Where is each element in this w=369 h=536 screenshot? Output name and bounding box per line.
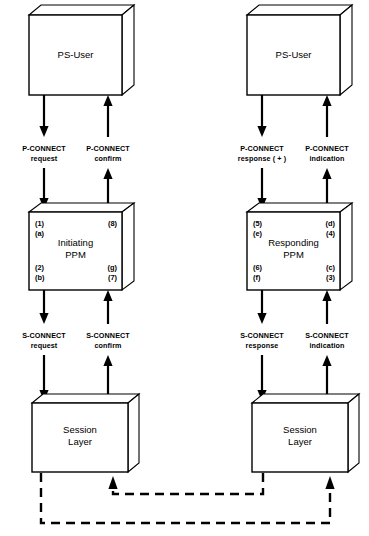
svg-text:P-CONNECT: P-CONNECT [305, 144, 349, 153]
left-ps-user-box-top-face [29, 5, 134, 15]
left-session-layer-label-line1: Session [63, 424, 97, 435]
svg-text:P-CONNECT: P-CONNECT [86, 144, 130, 153]
right-ps-user-box-right-face [340, 5, 352, 95]
initiating-ppm-box: Initiating PPM (1) (a) (8) (2) (b) (g) (… [29, 203, 134, 290]
svg-text:P-CONNECT: P-CONNECT [240, 144, 284, 153]
left-p-connect-confirm-arrow-upper [103, 95, 112, 137]
right-p-connect-response-label: P-CONNECT response ( + ) [238, 144, 287, 163]
initiating-ppm-label-line1: Initiating [58, 237, 93, 248]
right-s-connect-response-label: S-CONNECT response [240, 331, 284, 350]
responding-ppm-tag-top-left-2: (e) [253, 229, 263, 238]
svg-text:request: request [31, 154, 58, 163]
svg-text:P-CONNECT: P-CONNECT [22, 144, 66, 153]
responding-ppm-box-right-face [340, 203, 352, 290]
left-ps-user-label: PS-User [58, 49, 94, 60]
left-s-connect-confirm-arrow-upper [103, 290, 112, 324]
left-s-connect-request-arrow-upper [39, 290, 48, 324]
right-session-layer-box: Session Layer [252, 394, 359, 472]
initiating-ppm-tag-bottom-left-2: (b) [35, 273, 45, 282]
right-ps-user-box-top-face [247, 5, 352, 15]
right-s-connect-response-arrow-upper [257, 290, 266, 324]
diagram-svg: PS-User P-CONNECT request P-CONNECT conf… [0, 0, 369, 536]
responding-ppm-tag-bottom-left-1: (6) [253, 263, 263, 272]
svg-text:response: response [246, 341, 279, 350]
left-s-connect-confirm-label: S-CONNECT confirm [86, 331, 130, 350]
svg-text:S-CONNECT: S-CONNECT [22, 331, 66, 340]
initiating-ppm-tag-top-right-1: (8) [108, 219, 118, 228]
svg-text:S-CONNECT: S-CONNECT [86, 331, 130, 340]
left-ps-user-box-right-face [122, 5, 134, 95]
right-session-layer-label-line1: Session [283, 424, 317, 435]
left-s-connect-request-label: S-CONNECT request [22, 331, 66, 350]
responding-ppm-label-line1: Responding [268, 237, 319, 248]
initiating-ppm-tag-top-left-2: (a) [35, 229, 45, 238]
diagram-canvas: PS-User P-CONNECT request P-CONNECT conf… [0, 0, 369, 536]
svg-text:S-CONNECT: S-CONNECT [305, 331, 349, 340]
right-p-connect-response-arrow-upper [257, 95, 266, 137]
left-session-layer-box-right-face [128, 394, 139, 472]
initiating-ppm-tag-bottom-right-1: (g) [108, 263, 118, 272]
reverse-peer-link-arrowhead [108, 476, 117, 489]
responding-ppm-tag-bottom-right-1: (c) [326, 263, 336, 272]
right-ps-user-label: PS-User [276, 49, 312, 60]
svg-text:S-CONNECT: S-CONNECT [240, 331, 284, 340]
forward-peer-link [41, 473, 335, 523]
svg-text:confirm: confirm [94, 154, 121, 163]
right-p-connect-indication-label: P-CONNECT indication [305, 144, 349, 163]
forward-peer-link-arrowhead [325, 476, 334, 489]
responding-ppm-box-top-face [247, 203, 352, 212]
left-session-layer-box-top-face [32, 394, 139, 403]
right-session-layer-box-right-face [348, 394, 359, 472]
right-ps-user-box: PS-User [247, 5, 352, 95]
right-s-connect-indication-label: S-CONNECT indication [305, 331, 349, 350]
left-p-connect-confirm-label: P-CONNECT confirm [86, 144, 130, 163]
initiating-ppm-tag-bottom-right-2: (7) [108, 273, 118, 282]
right-session-layer-box-top-face [252, 394, 359, 403]
right-session-layer-label-line2: Layer [288, 436, 312, 447]
responding-ppm-tag-top-left-1: (5) [253, 219, 263, 228]
responding-ppm-label-line2: PPM [283, 249, 304, 260]
initiating-ppm-label-line2: PPM [65, 249, 86, 260]
initiating-ppm-box-right-face [122, 203, 134, 290]
svg-text:response ( + ): response ( + ) [238, 154, 287, 163]
responding-ppm-tag-top-right-2: (4) [326, 229, 336, 238]
responding-ppm-tag-bottom-right-2: (3) [326, 273, 336, 282]
right-s-connect-indication-arrow-upper [322, 290, 331, 324]
responding-ppm-tag-top-right-1: (d) [326, 219, 336, 228]
left-session-layer-label-line2: Layer [68, 436, 92, 447]
initiating-ppm-tag-top-left-1: (1) [35, 219, 45, 228]
responding-ppm-tag-bottom-left-2: (f) [253, 273, 261, 282]
svg-text:confirm: confirm [94, 341, 121, 350]
right-p-connect-indication-arrow-upper [322, 95, 331, 137]
initiating-ppm-box-top-face [29, 203, 134, 212]
responding-ppm-box: Responding PPM (5) (e) (d) (4) (6) (f) (… [247, 203, 352, 290]
svg-text:indication: indication [310, 341, 345, 350]
left-session-layer-box: Session Layer [32, 394, 139, 472]
svg-text:indication: indication [310, 154, 345, 163]
left-p-connect-request-label: P-CONNECT request [22, 144, 66, 163]
left-ps-user-box: PS-User [29, 5, 134, 95]
left-p-connect-request-arrow-upper [39, 95, 48, 137]
reverse-peer-link [108, 473, 263, 494]
initiating-ppm-tag-bottom-left-1: (2) [35, 263, 45, 272]
svg-text:request: request [31, 341, 58, 350]
